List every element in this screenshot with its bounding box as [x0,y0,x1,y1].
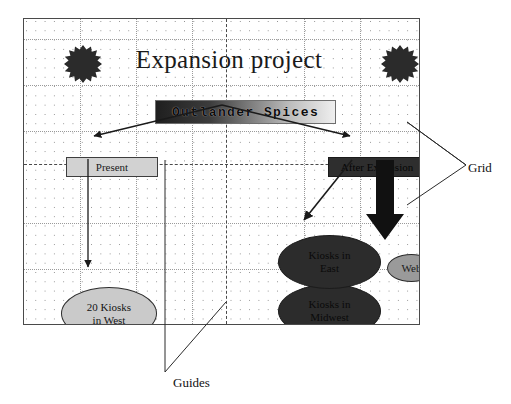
node-kiosks-east-line2: East [309,262,351,275]
grid-line-horizontal [24,39,419,40]
annotation-label-guides: Guides [173,375,210,391]
annotation-label-grid: Grid [468,160,492,176]
node-kiosks-east-line1: Kiosks in [309,249,351,262]
node-present[interactable]: Present [66,157,158,177]
node-kiosks-east[interactable]: Kiosks in East [278,235,381,289]
grid-line-horizontal [24,85,419,86]
diagram-canvas: Expansion project Outlander Spices Prese… [23,18,420,325]
grid-line-horizontal [24,131,419,132]
node-kiosks-east-label: Kiosks in East [309,249,351,275]
node-after-expansion[interactable]: After Expansion [328,157,420,177]
node-outlander-spices[interactable]: Outlander Spices [155,100,336,124]
starburst-icon [381,45,419,83]
node-kiosks-midwest-line1: Kiosks in [309,298,351,311]
grid-line-horizontal [24,223,419,224]
page-title: Expansion project [119,45,339,75]
starburst-icon [64,45,102,83]
node-kiosks-west-line1: 20 Kiosks [87,301,131,314]
node-outlander-spices-label: Outlander Spices [172,105,319,120]
node-kiosks-west-line2: in West [87,314,131,326]
node-kiosks-midwest-line2: Midwest [309,311,351,324]
node-kiosks-west-label: 20 Kiosks in West [87,301,131,326]
node-kiosks-midwest-label: Kiosks in Midwest [309,298,351,324]
